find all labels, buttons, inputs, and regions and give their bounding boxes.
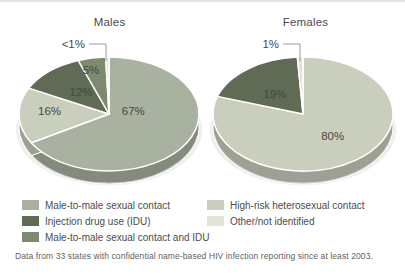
slice-percent-label: 80% [321,130,344,142]
females-pie-chart: 80%19%1% [205,30,400,200]
hiv-transmission-figure: Males Females 67%16%12%5%<1% 80%19%1% Ma… [0,0,405,277]
legend-swatch [22,200,39,210]
legend-item: Other/not identified [207,213,365,229]
legend-swatch [207,200,224,210]
males-pie-chart: 67%16%12%5%<1% [10,30,205,200]
legend-swatch [207,216,224,226]
legend-column-left: Male-to-male sexual contactInjection dru… [22,197,210,245]
males-chart-title: Males [12,16,207,28]
slice-percent-label: 5% [83,64,100,76]
legend-swatch [22,232,39,242]
slice-percent-label: 1% [262,38,279,50]
slice-percent-label: 67% [122,105,145,117]
slice-percent-label: 19% [264,88,287,100]
legend-item: Injection drug use (IDU) [22,213,210,229]
legend-item-label: Male-to-male sexual contact [45,200,170,211]
legend-swatch [22,216,39,226]
top-border [0,0,405,2]
legend-item-label: Other/not identified [230,216,315,227]
legend-column-right: High-risk heterosexual contactOther/not … [207,197,365,229]
females-chart-title: Females [208,16,403,28]
legend-item: Male-to-male sexual contact [22,197,210,213]
legend-item-label: High-risk heterosexual contact [230,200,365,211]
slice-percent-label: 12% [70,86,93,98]
legend-item-label: Injection drug use (IDU) [45,216,151,227]
legend-item-label: Male-to-male sexual contact and IDU [45,232,210,243]
legend-item: Male-to-male sexual contact and IDU [22,229,210,245]
slice-percent-label: 16% [38,105,61,117]
legend-item: High-risk heterosexual contact [207,197,365,213]
slice-percent-label: <1% [62,38,85,50]
footnote: Data from 33 states with confidential na… [15,251,373,261]
